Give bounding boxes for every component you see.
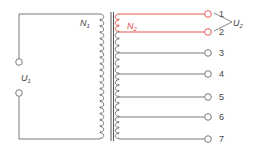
tap-6: 6 bbox=[119, 112, 224, 122]
tap-terminal-1 bbox=[205, 11, 212, 18]
tap-7: 7 bbox=[119, 134, 224, 144]
primary-bottom-wire bbox=[19, 97, 100, 140]
u2-label: U2 bbox=[233, 18, 244, 29]
tap-label-7: 7 bbox=[219, 134, 224, 144]
primary-circuit bbox=[16, 14, 100, 139]
tap-terminal-3 bbox=[205, 50, 212, 57]
tap-terminal-2 bbox=[205, 29, 212, 36]
tap-terminal-7 bbox=[205, 136, 212, 143]
tap-label-6: 6 bbox=[219, 112, 224, 122]
tap-label-4: 4 bbox=[219, 69, 224, 79]
primary-terminal-bottom bbox=[16, 90, 23, 97]
transformer-diagram: 1234567 N1 N2 U1 U2 bbox=[0, 0, 254, 153]
transformer-core bbox=[111, 12, 114, 141]
tap-terminal-4 bbox=[205, 71, 212, 78]
tap-1: 1 bbox=[119, 9, 224, 19]
secondary-coil-icon bbox=[115, 14, 119, 139]
n2-label: N2 bbox=[127, 21, 138, 32]
tap-label-3: 3 bbox=[219, 48, 224, 58]
n1-label: N1 bbox=[80, 18, 90, 29]
primary-terminal-top bbox=[16, 59, 23, 66]
u1-label: U1 bbox=[21, 73, 31, 84]
primary-coil-icon bbox=[100, 14, 104, 139]
tap-5: 5 bbox=[119, 92, 224, 102]
tap-4: 4 bbox=[119, 69, 224, 79]
primary-top-wire bbox=[19, 14, 100, 59]
tap-3: 3 bbox=[119, 48, 224, 58]
tap-terminal-6 bbox=[205, 114, 212, 121]
tap-label-5: 5 bbox=[219, 92, 224, 102]
tap-terminal-5 bbox=[205, 94, 212, 101]
